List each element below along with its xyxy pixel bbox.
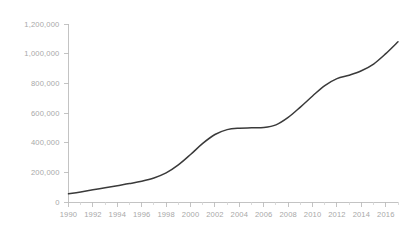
y-tick-label: 200,000 (31, 168, 60, 177)
y-axis-ticks: 0200,000400,000600,000800,0001,000,0001,… (24, 20, 68, 207)
y-tick-label: 1,200,000 (24, 20, 59, 29)
y-tick-label: 600,000 (31, 109, 60, 118)
x-tick-label: 2010 (304, 210, 322, 219)
line-chart: 0200,000400,000600,000800,0001,000,0001,… (0, 0, 408, 247)
x-tick-label: 1990 (60, 210, 78, 219)
x-tick-label: 2004 (231, 210, 249, 219)
x-tick-label: 1998 (157, 210, 175, 219)
y-tick-label: 400,000 (31, 138, 60, 147)
y-tick-label: 0 (55, 198, 59, 207)
x-tick-label: 1996 (133, 210, 151, 219)
x-axis-ticks: 1990199219941996199820002002200420062008… (60, 202, 398, 219)
x-tick-label: 2002 (206, 210, 224, 219)
x-tick-label: 2000 (182, 210, 200, 219)
data-series-group (69, 42, 399, 194)
x-tick-label: 2016 (377, 210, 395, 219)
x-tick-label: 1994 (109, 210, 127, 219)
x-tick-label: 2014 (353, 210, 371, 219)
chart-canvas: 0200,000400,000600,000800,0001,000,0001,… (0, 0, 408, 247)
axes-group (69, 24, 399, 202)
data-line-value (69, 42, 399, 194)
x-tick-label: 1992 (84, 210, 102, 219)
x-tick-label: 2008 (279, 210, 297, 219)
y-tick-label: 1,000,000 (24, 49, 59, 58)
x-tick-label: 2006 (255, 210, 273, 219)
x-tick-label: 2012 (328, 210, 346, 219)
y-tick-label: 800,000 (31, 79, 60, 88)
